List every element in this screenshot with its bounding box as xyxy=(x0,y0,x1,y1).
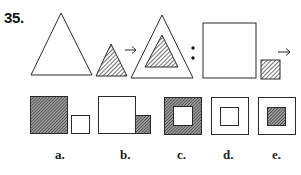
option-c-figure[interactable] xyxy=(165,98,202,135)
combined-triangle xyxy=(131,15,193,78)
option-d-figure[interactable] xyxy=(212,98,249,135)
option-a-figure[interactable] xyxy=(31,97,90,134)
small-hatched-triangle xyxy=(96,44,127,76)
option-b-label[interactable]: b. xyxy=(120,147,130,163)
arrow-right-icon xyxy=(125,47,136,54)
option-e-figure[interactable] xyxy=(259,98,296,135)
puzzle-figures xyxy=(0,0,301,175)
analogy-puzzle: 35. xyxy=(0,0,301,175)
arrow-right-icon xyxy=(278,49,290,56)
large-white-square xyxy=(203,23,256,78)
colon-separator xyxy=(191,46,194,59)
option-d-label[interactable]: d. xyxy=(223,147,233,163)
option-c-label[interactable]: c. xyxy=(177,147,186,163)
large-white-triangle xyxy=(31,13,92,75)
option-e-label[interactable]: e. xyxy=(272,147,281,163)
option-a-label[interactable]: a. xyxy=(55,147,65,163)
option-b-figure[interactable] xyxy=(99,97,151,134)
small-hatched-square xyxy=(261,60,280,79)
